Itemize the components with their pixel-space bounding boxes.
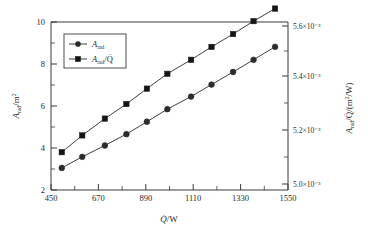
svg-text:5.4×10⁻³: 5.4×10⁻³ — [293, 72, 321, 81]
radiation-area-chart: 2 4 6 8 10 5.0×10⁻³ 5.2×10⁻³ 5.4×10⁻³ 5.… — [0, 0, 368, 243]
x-tick-label-670: 670 — [92, 193, 105, 203]
y-tick-label-6: 6 — [41, 101, 45, 111]
data-point — [102, 143, 108, 149]
data-point — [124, 131, 130, 137]
svg-text:5.2×10⁻³: 5.2×10⁻³ — [293, 126, 321, 135]
data-point — [251, 57, 257, 63]
y2-tick-label-50: 5.0×10⁻³ — [293, 180, 321, 189]
data-point — [79, 154, 85, 160]
chart-background — [0, 0, 368, 243]
x-tick-label-890: 890 — [139, 193, 152, 203]
x-tick-label-450: 450 — [45, 193, 58, 203]
data-point — [124, 101, 129, 106]
data-point — [164, 106, 170, 112]
x-tick-label-1550: 1550 — [280, 193, 297, 203]
y2-tick-label-52: 5.2×10⁻³ — [293, 126, 321, 135]
data-point — [165, 71, 170, 76]
data-point — [80, 133, 85, 138]
legend-marker-circle — [75, 41, 80, 46]
data-point — [59, 150, 64, 155]
data-point — [272, 44, 278, 50]
data-point — [102, 116, 107, 121]
data-point — [230, 69, 236, 75]
y-axis-label: Arad/m2 — [11, 93, 22, 119]
data-point — [209, 82, 215, 88]
x-tick-label-1110: 1110 — [185, 193, 201, 203]
legend: Arad Arad/Q̇ — [64, 34, 126, 68]
y-tick-label-8: 8 — [41, 59, 45, 69]
x-axis-label: Q̇/W — [160, 214, 178, 224]
data-point — [188, 57, 193, 62]
chart-figure: 2 4 6 8 10 5.0×10⁻³ 5.2×10⁻³ 5.4×10⁻³ 5.… — [0, 0, 368, 243]
data-point — [188, 94, 194, 100]
y2-tick-label-56: 5.6×10⁻³ — [293, 22, 321, 31]
data-point — [59, 165, 65, 171]
data-point — [230, 31, 235, 36]
svg-text:5.0×10⁻³: 5.0×10⁻³ — [293, 180, 321, 189]
data-point — [209, 44, 214, 49]
legend-marker-square — [75, 56, 80, 61]
data-point — [251, 18, 256, 23]
x-tick-label-1330: 1330 — [232, 193, 249, 203]
y-tick-label-10: 10 — [37, 17, 46, 27]
y2-tick-label-54: 5.4×10⁻³ — [293, 72, 321, 81]
data-point — [144, 86, 149, 91]
data-point — [144, 119, 150, 125]
svg-text:5.6×10⁻³: 5.6×10⁻³ — [293, 22, 321, 31]
data-point — [272, 6, 277, 11]
